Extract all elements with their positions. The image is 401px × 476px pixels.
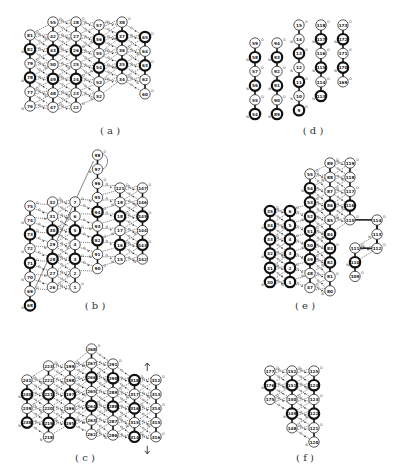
nitrogen-marker-icon xyxy=(42,212,44,214)
residue-label: 151 xyxy=(288,383,297,388)
oxygen-label: O xyxy=(36,87,39,91)
residue-label: 6 xyxy=(289,209,292,214)
residue-node: 38O xyxy=(117,17,131,27)
nitrogen-marker-icon xyxy=(281,219,283,221)
residue-label: 50 xyxy=(307,243,313,248)
oxygen-marker-icon xyxy=(39,40,41,42)
oxygen-marker-icon xyxy=(62,41,64,43)
nitrogen-label: N xyxy=(268,115,271,119)
hydrogen-bond xyxy=(79,205,94,210)
oxygen-marker-icon xyxy=(297,240,299,242)
oxygen-label: O xyxy=(305,48,308,52)
residue-node: 60O xyxy=(140,89,154,99)
residue-label: 171 xyxy=(339,51,348,56)
oxygen-marker-icon xyxy=(78,398,80,400)
residue-node: 266O xyxy=(86,372,100,382)
oxygen-label: O xyxy=(36,229,39,233)
hydrogen-bond xyxy=(294,276,307,279)
nitrogen-marker-icon xyxy=(301,286,303,288)
residue-label: 68 xyxy=(27,303,33,308)
residue-label: 82 xyxy=(27,47,33,52)
nitrogen-marker-icon xyxy=(89,46,91,48)
nitrogen-label: N xyxy=(312,69,315,73)
residue-node: 59O xyxy=(250,38,264,48)
oxygen-label: O xyxy=(105,48,108,52)
oxygen-marker-icon xyxy=(131,34,133,36)
hydrogen-bond xyxy=(117,423,131,434)
hydrogen-bond xyxy=(359,251,374,260)
nitrogen-label: N xyxy=(321,207,324,211)
oxygen-label: O xyxy=(33,375,36,379)
nitrogen-marker-icon xyxy=(132,238,134,240)
residue-node: 55O xyxy=(48,17,62,27)
oxygen-marker-icon xyxy=(337,196,339,198)
oxygen-marker-icon xyxy=(78,426,80,428)
hydrogen-bond xyxy=(34,237,49,242)
residue-label: 267 xyxy=(87,361,96,366)
oxygen-marker-icon xyxy=(83,247,85,249)
nitrogen-label: N xyxy=(44,217,47,221)
hydrogen-bond xyxy=(101,228,116,229)
oxygen-marker-icon xyxy=(61,221,63,223)
residue-label: 115 xyxy=(317,65,326,70)
oxygen-label: O xyxy=(98,344,101,348)
residue-label: 10 xyxy=(296,94,302,99)
residue-label: 54 xyxy=(307,186,313,191)
residue-node: 198N xyxy=(61,375,75,385)
residue-label: 15 xyxy=(117,257,123,262)
residue-node: 95N xyxy=(89,192,103,202)
residue-node: 80N xyxy=(321,286,335,296)
oxygen-label: O xyxy=(276,263,279,267)
residue-node: 47O xyxy=(48,102,62,112)
residue-node: 263N xyxy=(83,415,97,425)
oxygen-label: O xyxy=(149,211,152,215)
residue-node: 35O xyxy=(265,206,279,216)
hydrogen-bond xyxy=(314,237,327,243)
residue-label: 220 xyxy=(44,406,53,411)
nitrogen-marker-icon xyxy=(103,393,105,395)
residue-label: 69 xyxy=(27,289,33,294)
residue-label: 37 xyxy=(119,34,125,39)
nitrogen-marker-icon xyxy=(304,393,306,395)
nitrogen-marker-icon xyxy=(146,381,148,383)
oxygen-label: O xyxy=(104,207,107,211)
nitrogen-marker-icon xyxy=(60,367,62,369)
nitrogen-marker-icon xyxy=(87,264,89,266)
residue-node: 5O xyxy=(70,225,84,235)
oxygen-label: O xyxy=(296,206,299,210)
oxygen-marker-icon xyxy=(85,28,87,30)
oxygen-marker-icon xyxy=(35,385,37,387)
residue-node: 32N xyxy=(261,248,275,258)
residue-node: 10N xyxy=(290,91,304,101)
residue-node: 116N xyxy=(341,200,355,210)
oxygen-label: O xyxy=(296,234,299,238)
residue-node: 54N xyxy=(90,62,104,72)
hydrogen-bond xyxy=(79,261,94,266)
residue-node: 52N xyxy=(301,211,315,221)
residue-node: 26O xyxy=(71,45,85,55)
oxygen-marker-icon xyxy=(317,251,319,253)
residue-label: 70 xyxy=(27,275,33,280)
nitrogen-marker-icon xyxy=(132,224,134,226)
residue-node: 34N xyxy=(261,220,275,230)
oxygen-marker-icon xyxy=(39,83,41,85)
residue-label: 11 xyxy=(296,80,302,85)
oxygen-label: O xyxy=(349,77,352,81)
panel-e: 35O34N33O32N31O30N6O5N4O3N2O1N55O54N53O5… xyxy=(261,158,386,296)
residue-label: 54 xyxy=(252,112,258,117)
oxygen-label: O xyxy=(59,254,62,258)
residue-label: 170 xyxy=(339,65,348,70)
residue-label: 115 xyxy=(346,218,355,223)
hydrogen-bond xyxy=(34,280,49,285)
oxygen-marker-icon xyxy=(62,27,64,29)
oxygen-marker-icon xyxy=(128,221,130,223)
nitrogen-label: N xyxy=(246,58,249,62)
caption-a: ( a ) xyxy=(100,125,120,136)
nitrogen-label: N xyxy=(21,221,24,225)
oxygen-marker-icon xyxy=(278,376,280,378)
nitrogen-marker-icon xyxy=(132,196,134,198)
nitrogen-label: N xyxy=(346,263,349,267)
hydrogen-bond xyxy=(101,185,116,186)
residue-label: 287 xyxy=(109,419,118,424)
residue-label: 85 xyxy=(327,218,333,223)
